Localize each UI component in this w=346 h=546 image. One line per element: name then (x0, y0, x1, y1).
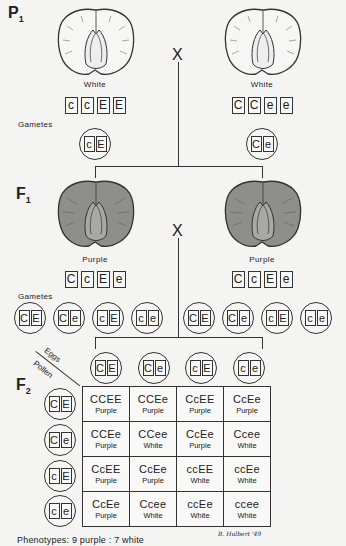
p1-right-genotype: C C e e (222, 97, 302, 114)
p1-right-gamete: C e (246, 128, 278, 160)
f1-right-gamete: ce (300, 302, 332, 334)
p1-gametes-label: Gametes (18, 120, 53, 129)
punnett-cell: ccEeWhite (177, 492, 224, 527)
allele: E (97, 97, 110, 114)
f1-right-gamete: CE (183, 302, 215, 334)
white-seed-right-icon (222, 6, 304, 81)
f1-left-phenotype: Purple (55, 255, 135, 264)
f1-left-gamete: ce (131, 302, 163, 334)
f1-branch-line (95, 337, 263, 338)
p1-generation-label: P1 (8, 4, 24, 24)
pollen-gamete: CE (44, 388, 76, 420)
punnett-cell: CcEePurple (224, 387, 271, 422)
punnett-cell: CcEePurple (130, 457, 177, 492)
f1-right-gamete: Ce (222, 302, 254, 334)
egg-gamete: cE (185, 352, 217, 384)
punnett-cell: CcEePurple (177, 422, 224, 457)
punnett-cell: CCeeWhite (130, 422, 177, 457)
allele: e (280, 97, 293, 114)
p1-cross-line (178, 62, 179, 166)
egg-gamete: ce (233, 352, 265, 384)
f1-right-phenotype: Purple (222, 255, 302, 264)
f1-left-genotype: C c E e (55, 271, 135, 288)
punnett-cell: CcEEPurple (177, 387, 224, 422)
table-row: CcEePurple CceeWhite ccEeWhite cceeWhite (83, 492, 271, 527)
f1-branch-right (262, 337, 263, 349)
pollen-gamete: ce (44, 495, 76, 527)
f1-gametes-label: Gametes (18, 292, 53, 301)
artist-signature: B. Hulbert '49 (218, 530, 261, 537)
punnett-square: CCEEPurple CCEePurple CcEEPurple CcEePur… (82, 386, 271, 527)
p1-left-genotype: c c E E (55, 97, 135, 114)
punnett-cell: CCEEPurple (83, 387, 130, 422)
allele: C (248, 97, 261, 114)
punnett-cell: CCEePurple (83, 422, 130, 457)
punnett-cell: CCEePurple (130, 387, 177, 422)
purple-seed-left-icon (55, 178, 137, 253)
egg-gamete: Ce (138, 352, 170, 384)
egg-gamete: CE (90, 352, 122, 384)
purple-seed-right-icon (222, 178, 304, 253)
allele: c (65, 97, 78, 114)
punnett-cell: CceeWhite (224, 422, 271, 457)
p1-left-gamete: c E (79, 128, 111, 160)
f1-left-gamete: cE (92, 302, 124, 334)
f1-generation-label: F1 (16, 185, 31, 205)
pollen-gamete: cE (44, 460, 76, 492)
f1-right-gamete: cE (261, 302, 293, 334)
p1-branch-line (95, 166, 263, 167)
p1-branch-right (262, 166, 263, 178)
pollen-gamete: Ce (44, 424, 76, 456)
f1-left-gamete: CE (14, 302, 46, 334)
f1-branch-left (95, 337, 96, 349)
punnett-cell: CcEEPurple (83, 457, 130, 492)
allele: c (81, 97, 94, 114)
p1-left-phenotype: White (55, 80, 135, 89)
table-row: CcEEPurple CcEePurple ccEEWhite ccEeWhit… (83, 457, 271, 492)
p1-right-phenotype: White (222, 80, 302, 89)
allele: E (113, 97, 126, 114)
allele: C (232, 97, 245, 114)
punnett-cell: CceeWhite (130, 492, 177, 527)
punnett-cell: CcEePurple (83, 492, 130, 527)
punnett-cell: ccEeWhite (224, 457, 271, 492)
eggs-axis-label: Eggs (42, 346, 62, 364)
white-seed-left-icon (55, 6, 137, 81)
table-row: CCEEPurple CCEePurple CcEEPurple CcEePur… (83, 387, 271, 422)
f1-right-genotype: C c E e (222, 271, 302, 288)
allele: e (264, 97, 277, 114)
punnett-cell: ccEEWhite (177, 457, 224, 492)
f2-generation-label: F2 (16, 376, 31, 396)
f1-left-gamete: Ce (53, 302, 85, 334)
table-row: CCEePurple CCeeWhite CcEePurple CceeWhit… (83, 422, 271, 457)
p1-branch-left (95, 166, 96, 178)
f1-cross-line (178, 238, 179, 338)
phenotype-ratio: Phenotypes: 9 purple : 7 white (17, 535, 144, 545)
punnett-cell: cceeWhite (224, 492, 271, 527)
